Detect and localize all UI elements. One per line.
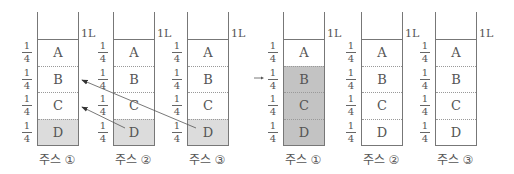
arrow-juice3-to-juice1 <box>82 80 196 128</box>
arrow-juice2-to-juice1 <box>82 107 125 128</box>
transfer-arrows <box>0 0 514 174</box>
